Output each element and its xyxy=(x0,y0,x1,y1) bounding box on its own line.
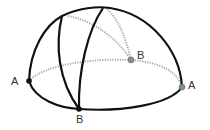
back-meridian-1 xyxy=(68,16,131,60)
hemisphere-diagram: A A B B xyxy=(0,0,210,130)
back-equator-dotted xyxy=(29,60,182,87)
back-meridian-2 xyxy=(106,8,131,60)
point-back-b xyxy=(128,57,134,63)
label-front-b: B xyxy=(76,113,83,125)
label-back-b: B xyxy=(137,49,144,61)
point-right-a xyxy=(179,84,185,90)
label-right-a: A xyxy=(188,79,196,91)
point-front-b xyxy=(76,106,82,112)
point-left-a xyxy=(26,78,32,84)
dome-outline xyxy=(29,7,182,87)
front-meridian-2 xyxy=(79,8,103,109)
hemisphere-svg: A A B B xyxy=(0,0,210,130)
label-left-a: A xyxy=(11,75,19,87)
front-equator xyxy=(29,81,182,110)
